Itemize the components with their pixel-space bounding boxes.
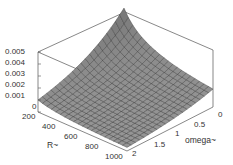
omega-tick: 1 [175,130,179,138]
r-tick: 400 [42,123,55,131]
r-tick: 1000 [105,153,123,161]
z-tick: 0.003 [5,70,25,78]
omega-tick: 2 [132,150,136,158]
omega-axis-title: omega~ [185,136,216,145]
z-tick: 0.004 [5,59,25,67]
z-tick: 0 [32,103,36,111]
r-tick: 200 [22,113,35,121]
z-tick: 0.005 [5,48,25,56]
z-tick: 0.001 [5,92,25,100]
omega-tick: 1.5 [154,141,165,149]
z-tick: 0.002 [5,81,25,89]
r-tick: 600 [64,133,77,141]
z-axis-ticks [38,52,41,112]
r-tick: 800 [85,143,98,151]
omega-tick: 0 [218,111,222,119]
r-axis-title: R~ [47,141,58,150]
omega-tick: 0.5 [194,121,205,129]
surface-mesh [38,8,213,147]
